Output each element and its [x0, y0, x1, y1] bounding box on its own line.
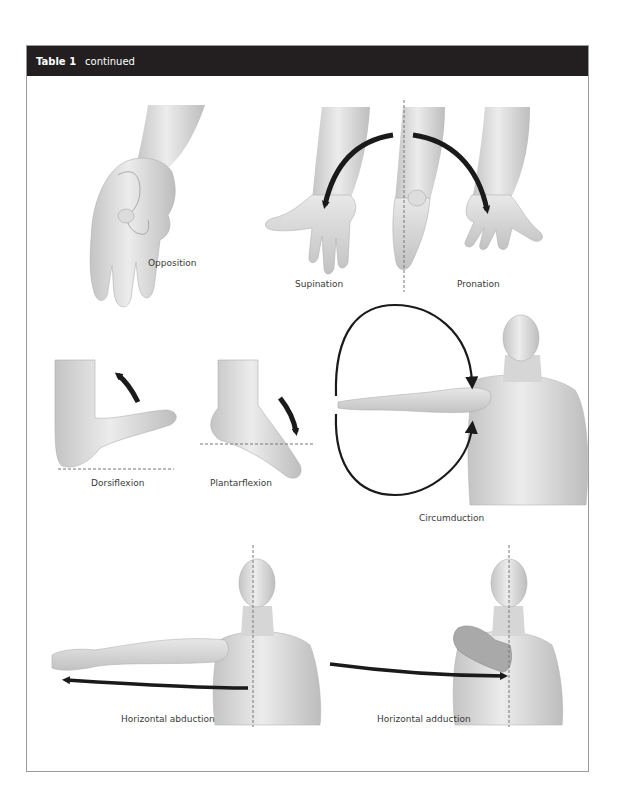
- label-dorsiflexion: Dorsiflexion: [91, 478, 144, 488]
- plantarflexion-arrow: [280, 398, 296, 432]
- horizontal-abduction-illustration: [52, 545, 321, 727]
- label-circumduction: Circumduction: [419, 513, 484, 523]
- supination-pronation-illustration: [265, 100, 542, 292]
- label-pronation: Pronation: [457, 279, 500, 289]
- horizontal-adduction-illustration: [330, 545, 563, 727]
- circumduction-upper-arrow: [336, 305, 472, 396]
- label-opposition: Opposition: [148, 258, 196, 268]
- circumduction-illustration: [336, 305, 588, 505]
- plantarflexion-foot-illustration: [200, 360, 314, 478]
- label-supination: Supination: [295, 279, 343, 289]
- dorsiflexion-arrow: [118, 375, 138, 402]
- dorsiflexion-foot-illustration: [55, 360, 176, 469]
- label-horizontal-abduction: Horizontal abduction: [121, 714, 215, 724]
- label-horizontal-adduction: Horizontal adduction: [377, 714, 471, 724]
- movement-illustrations: [0, 0, 618, 810]
- circumduction-lower-arrow: [336, 414, 472, 495]
- label-plantarflexion: Plantarflexion: [210, 478, 272, 488]
- opposition-hand-illustration: [90, 105, 205, 307]
